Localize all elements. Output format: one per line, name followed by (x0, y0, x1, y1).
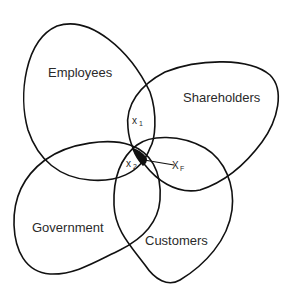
point-xf-label: X F (172, 160, 184, 172)
xf-leader-line (144, 160, 174, 165)
svg-text:x: x (132, 115, 137, 126)
employees-set-outline (24, 24, 155, 180)
customers-label: Customers (145, 233, 208, 248)
employees-label: Employees (48, 65, 113, 80)
point-x1-label: x 1 (132, 115, 143, 127)
stakeholder-venn-diagram: Employees Shareholders Government Custom… (0, 0, 290, 297)
government-set-outline (14, 142, 160, 274)
svg-text:2: 2 (133, 163, 137, 170)
shareholders-set-outline (128, 62, 279, 191)
svg-text:x: x (126, 158, 131, 169)
point-x2-label: x 2 (126, 158, 137, 170)
svg-text:1: 1 (139, 120, 143, 127)
svg-text:X: X (172, 160, 179, 171)
government-label: Government (32, 220, 104, 235)
svg-text:F: F (180, 165, 184, 172)
shareholders-label: Shareholders (183, 90, 261, 105)
